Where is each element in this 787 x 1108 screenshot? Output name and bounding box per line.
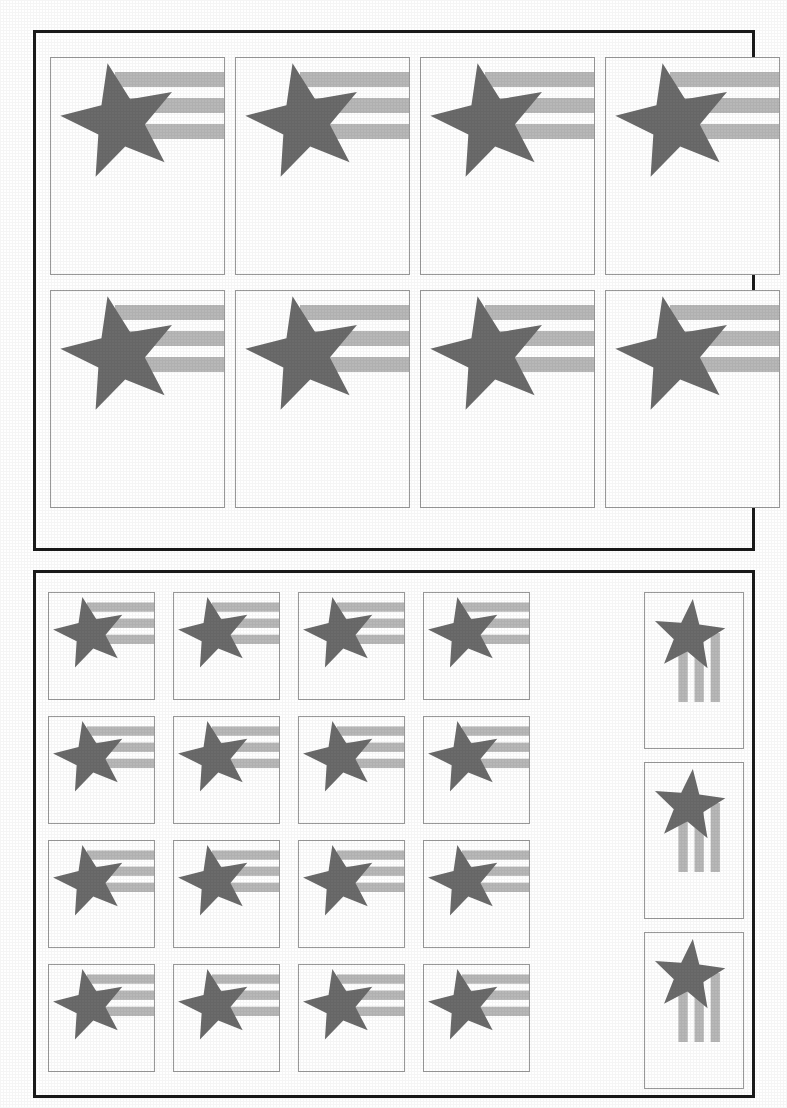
stripe [300, 305, 410, 320]
bottom-panel [33, 570, 755, 1098]
stripe [462, 974, 530, 983]
star-and-stripes-motif [57, 293, 225, 421]
motif-cell [605, 57, 780, 275]
motif-cell [298, 964, 405, 1072]
rotated-motif-cell [644, 932, 744, 1089]
star-and-stripes-motif [426, 595, 530, 674]
stripe [87, 726, 155, 735]
stripe [87, 850, 155, 859]
star-and-stripes-motif [57, 60, 225, 188]
motif-cell [298, 840, 405, 948]
stripe [115, 305, 225, 320]
star-and-stripes-motif [612, 293, 780, 421]
sheet-page [0, 0, 787, 1108]
motif-cell [420, 57, 595, 275]
star-and-stripes-motif [648, 767, 727, 872]
motif-cell [423, 840, 530, 948]
star-and-stripes-motif [426, 843, 530, 922]
motif-cell [48, 840, 155, 948]
stripe [462, 602, 530, 611]
stripe [711, 973, 720, 1042]
stripe [337, 850, 405, 859]
stripe [670, 72, 780, 87]
stripe [115, 72, 225, 87]
motif-cell [605, 290, 780, 508]
star-and-stripes-motif [648, 937, 727, 1042]
stripe [711, 633, 720, 702]
stripe [87, 602, 155, 611]
star-and-stripes-motif [242, 60, 410, 188]
stripe [212, 726, 280, 735]
star-and-stripes-motif [301, 595, 405, 674]
motif-cell [298, 716, 405, 824]
motif-cell [173, 964, 280, 1072]
stripe [212, 974, 280, 983]
motif-cell [420, 290, 595, 508]
stripe [337, 602, 405, 611]
stripe [485, 72, 595, 87]
motif-cell [173, 716, 280, 824]
stripe [337, 974, 405, 983]
star-and-stripes-motif [427, 293, 595, 421]
star-and-stripes-motif [51, 595, 155, 674]
motif-cell [48, 592, 155, 700]
star-and-stripes-motif [176, 719, 280, 798]
stripe [300, 72, 410, 87]
stripe [462, 850, 530, 859]
motif-cell [423, 716, 530, 824]
star-and-stripes-motif [648, 597, 727, 702]
motif-cell [235, 290, 410, 508]
star-and-stripes-motif [51, 967, 155, 1046]
top-panel [33, 30, 755, 551]
motif-cell [173, 592, 280, 700]
stripe [485, 305, 595, 320]
star-and-stripes-motif [51, 719, 155, 798]
star-and-stripes-motif [301, 843, 405, 922]
motif-cell [173, 840, 280, 948]
motif-cell [48, 964, 155, 1072]
stripe [670, 305, 780, 320]
motif-cell [50, 57, 225, 275]
motif-cell [50, 290, 225, 508]
stripe [212, 602, 280, 611]
star-and-stripes-motif [427, 60, 595, 188]
stripe [87, 974, 155, 983]
star-and-stripes-motif [51, 843, 155, 922]
stripe [711, 803, 720, 872]
star-and-stripes-motif [176, 843, 280, 922]
stripe [337, 726, 405, 735]
star-and-stripes-motif [176, 967, 280, 1046]
star-and-stripes-motif [176, 595, 280, 674]
motif-cell [423, 592, 530, 700]
star-and-stripes-motif [612, 60, 780, 188]
motif-cell [235, 57, 410, 275]
star-and-stripes-motif [426, 967, 530, 1046]
star-and-stripes-motif [301, 967, 405, 1046]
motif-cell [48, 716, 155, 824]
rotated-motif-cell [644, 592, 744, 749]
stripe [462, 726, 530, 735]
motif-cell [423, 964, 530, 1072]
motif-cell [298, 592, 405, 700]
stripe [212, 850, 280, 859]
star-and-stripes-motif [426, 719, 530, 798]
star-and-stripes-motif [301, 719, 405, 798]
star-and-stripes-motif [242, 293, 410, 421]
rotated-motif-cell [644, 762, 744, 919]
